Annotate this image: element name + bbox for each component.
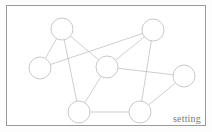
graph-edge [116, 37, 145, 60]
graph-edge [149, 83, 176, 105]
graph-node[interactable] [173, 65, 195, 87]
graph-edge [118, 68, 173, 74]
diagram-screen: setting [0, 0, 212, 132]
graph-node[interactable] [96, 56, 118, 78]
graph-node[interactable] [51, 18, 73, 40]
graph-node[interactable] [29, 57, 51, 79]
graph-edge [45, 39, 56, 59]
panel-caption: setting [173, 113, 201, 124]
graph-edge [85, 76, 101, 102]
graph-edge [64, 40, 77, 101]
graph-panel: setting [6, 5, 206, 126]
node-layer [29, 18, 195, 123]
graph-node[interactable] [68, 101, 90, 123]
network-graph[interactable] [7, 6, 207, 127]
graph-node[interactable] [142, 19, 164, 41]
graph-node[interactable] [129, 101, 151, 123]
